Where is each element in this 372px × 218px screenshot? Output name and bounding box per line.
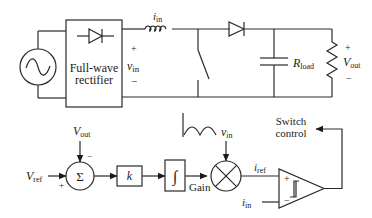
vout-label: + Vout −: [343, 42, 361, 84]
switch-control-arrow: [316, 129, 342, 189]
inductor-icon: [145, 26, 166, 31]
switch-control-label-line1: Switch: [276, 115, 307, 127]
ac-source: [20, 31, 66, 98]
inductor: iin: [145, 10, 166, 31]
svg-text:−: −: [346, 73, 352, 84]
capacitor-icon: [260, 29, 288, 97]
pfc-boost-converter-diagram: Full-wave rectifier + vin − iin Rload: [0, 0, 372, 218]
vin-ref-label: vin: [221, 125, 233, 140]
vref-label: Vref: [26, 169, 43, 184]
gain-k-block: k: [117, 166, 142, 186]
switch-icon: [198, 29, 209, 97]
hysteresis-comparator: + −: [279, 169, 324, 208]
iref-label: iref: [254, 161, 266, 175]
svg-text:−: −: [131, 75, 137, 87]
vin-label: + vin −: [127, 43, 140, 87]
svg-text:vin: vin: [127, 59, 140, 74]
svg-text:+: +: [284, 173, 290, 184]
svg-text:k: k: [127, 169, 133, 183]
svg-text:−: −: [284, 195, 290, 206]
svg-text:+: +: [131, 43, 137, 54]
multiplier-icon: [211, 161, 241, 191]
iin-control-label: iin: [242, 196, 251, 210]
integrator-block: ∫: [165, 160, 185, 191]
resistor-icon: [327, 29, 337, 97]
full-wave-rectifier: Full-wave rectifier: [66, 20, 122, 107]
rectified-sine-icon: [183, 113, 216, 137]
vref-sign: +: [59, 180, 64, 190]
output-diode-icon: [229, 22, 244, 36]
rload-label: Rload: [292, 56, 314, 71]
rectifier-label-line2: rectifier: [75, 73, 113, 87]
summing-junction: Σ: [66, 162, 94, 190]
switch-control-label-line2: control: [275, 127, 306, 139]
svg-text:+: +: [345, 42, 351, 53]
svg-text:Vout: Vout: [343, 55, 361, 70]
vout-fb-sign: −: [87, 151, 92, 161]
gain-label: Gain: [189, 181, 211, 193]
vout-fb-label: Vout: [73, 124, 91, 139]
svg-text:Σ: Σ: [76, 169, 84, 184]
iin-label: iin: [153, 10, 162, 24]
